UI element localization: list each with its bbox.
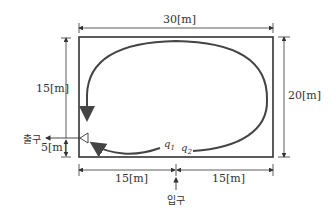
width-label: 30[m] (163, 13, 196, 26)
exit-label: 출구 (23, 131, 41, 146)
bottom-left-label: 15[m] (115, 172, 148, 185)
entrance-label: 입구 (167, 192, 185, 207)
exit-nozzle (80, 133, 88, 143)
left-upper-label: 15[m] (36, 82, 69, 95)
diagram-canvas (0, 0, 332, 213)
q1-label: q1 (164, 138, 175, 152)
flow-path-q1 (93, 144, 160, 154)
bottom-right-label: 15[m] (212, 172, 245, 185)
q2-label: q2 (181, 142, 192, 156)
flow-path (87, 41, 267, 151)
height-label: 20[m] (288, 89, 321, 102)
left-lower-label: 5[m] (41, 141, 67, 154)
